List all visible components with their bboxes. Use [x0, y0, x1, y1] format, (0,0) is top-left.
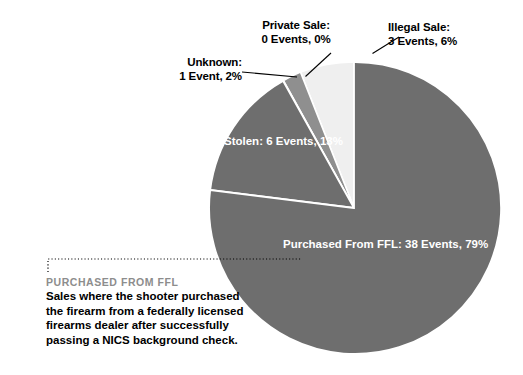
pie-label-purchased-from-ffl-line1: Purchased From FFL:	[283, 238, 402, 250]
pie-label-unknown-line1: Unknown:	[187, 56, 242, 68]
leader-line-unknown	[242, 72, 297, 77]
definition-callout-body: Sales where the shooter purchased the fi…	[46, 289, 246, 347]
pie-label-illegal-sale-line1: Illegal Sale:	[388, 21, 450, 33]
pie-label-illegal-sale: Illegal Sale: 3 Events, 6%	[388, 20, 457, 48]
pie-label-purchased-from-ffl-line2: 38 Events, 79%	[405, 238, 488, 250]
definition-callout-title: PURCHASED FROM FFL	[46, 276, 246, 288]
pie-label-unknown: Unknown: 1 Event, 2%	[156, 55, 242, 83]
pie-label-stolen-line1: Stolen:	[224, 135, 263, 147]
pie-label-private-sale-line1: Private Sale:	[262, 19, 330, 31]
pie-label-purchased-from-ffl: Purchased From FFL: 38 Events, 79%	[283, 237, 433, 251]
pie-label-private-sale: Private Sale: 0 Events, 0%	[236, 18, 356, 46]
pie-label-unknown-line2: 1 Event, 2%	[156, 69, 242, 83]
definition-callout: PURCHASED FROM FFL Sales where the shoot…	[46, 276, 246, 347]
pie-label-illegal-sale-line2: 3 Events, 6%	[388, 34, 457, 48]
pie-chart-figure: Private Sale: 0 Events, 0% Illegal Sale:…	[0, 0, 523, 375]
pie-label-stolen: Stolen: 6 Events, 13%	[224, 134, 340, 148]
pie-label-stolen-line2: 6 Events, 13%	[266, 135, 343, 147]
pie-label-private-sale-line2: 0 Events, 0%	[236, 32, 356, 46]
